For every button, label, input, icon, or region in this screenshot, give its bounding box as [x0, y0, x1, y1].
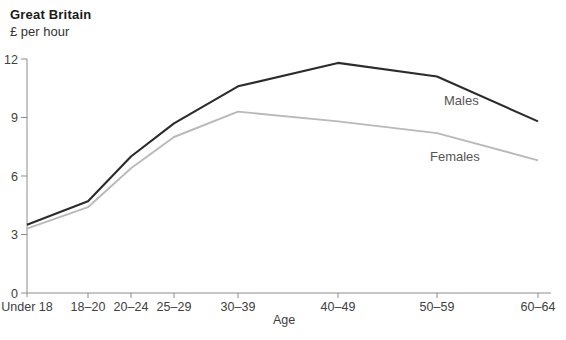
y-tick-label: 12 — [4, 53, 18, 67]
chart-page: Great Britain £ per hour 036912Under 181… — [0, 0, 566, 340]
x-tick-label: 30–39 — [221, 300, 256, 314]
x-tick-label: 25–29 — [157, 300, 192, 314]
x-tick-label: Under 18 — [1, 300, 52, 314]
females-line — [27, 112, 538, 229]
males-line — [27, 63, 538, 225]
y-tick-label: 9 — [11, 111, 18, 125]
y-tick-label: 0 — [11, 287, 18, 301]
males-series-label: Males — [444, 93, 479, 108]
line-chart-svg: 036912Under 1818–2020–2425–2930–3940–495… — [0, 0, 566, 340]
y-tick-label: 6 — [11, 170, 18, 184]
y-tick-label: 3 — [11, 228, 18, 242]
x-tick-label: 60–64 — [521, 300, 556, 314]
x-axis-title: Age — [273, 313, 295, 327]
x-tick-label: 20–24 — [114, 300, 149, 314]
females-series-label: Females — [430, 149, 480, 164]
x-tick-label: 40–49 — [321, 300, 356, 314]
x-tick-label: 18–20 — [71, 300, 106, 314]
x-tick-label: 50–59 — [420, 300, 455, 314]
